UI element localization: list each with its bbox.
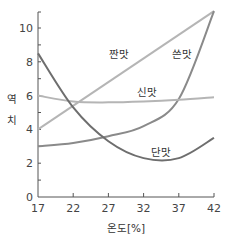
- y-tick-label: 6: [26, 90, 33, 103]
- series-line: [38, 11, 214, 129]
- x-tick-label: 17: [31, 202, 45, 215]
- y-axis-label-part2: 치: [7, 114, 17, 126]
- curve-labels: 짠맛쓴맛신맛단맛: [109, 48, 192, 158]
- x-tick-label: 27: [101, 202, 115, 215]
- series-line: [38, 11, 214, 146]
- threshold-chart: 0246810172227323742 짠맛쓴맛신맛단맛 온도[%] 역 치: [0, 0, 231, 241]
- y-tick-label: 8: [26, 56, 33, 69]
- series-label: 신맛: [137, 86, 157, 98]
- y-axis-label-part1: 역: [7, 93, 17, 105]
- series-label: 단맛: [151, 146, 171, 158]
- series-label: 짠맛: [109, 48, 129, 60]
- y-tick-label: 4: [26, 123, 33, 136]
- x-tick-label: 42: [207, 202, 221, 215]
- x-tick-label: 32: [137, 202, 151, 215]
- x-tick-label: 37: [172, 202, 186, 215]
- x-axis-label: 온도[%]: [107, 222, 145, 234]
- series-label: 쓴맛: [172, 48, 192, 60]
- curves: [38, 11, 214, 160]
- axes: 0246810172227323742: [19, 12, 221, 215]
- x-tick-label: 22: [66, 202, 80, 215]
- y-tick-label: 2: [26, 157, 33, 170]
- y-tick-label: 10: [19, 22, 33, 35]
